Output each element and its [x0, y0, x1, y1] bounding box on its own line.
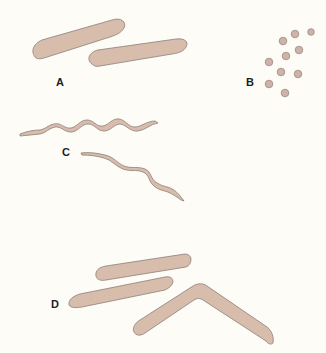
- label-b: B: [246, 77, 254, 88]
- fusiform-cell: [96, 254, 191, 280]
- coccus-cell: [294, 70, 302, 78]
- panel-a: [33, 19, 187, 66]
- coccus-cell: [308, 29, 315, 36]
- rod-cell: [89, 39, 187, 67]
- spiral-cell: [81, 153, 184, 201]
- coccus-cell: [265, 80, 273, 88]
- coccus-cell: [291, 30, 299, 38]
- coccus-cell: [295, 46, 303, 54]
- panel-b: [265, 29, 314, 97]
- panel-c: [20, 119, 184, 201]
- cropped-header-text: [150, 0, 326, 5]
- spiral-cell: [20, 119, 158, 136]
- panel-d: [69, 254, 273, 344]
- label-a: A: [56, 77, 64, 88]
- coccus-cell: [282, 52, 290, 60]
- illustration-canvas: [0, 0, 326, 353]
- fusiform-cell: [69, 277, 173, 308]
- figure: A B C D: [0, 0, 326, 353]
- coccus-cell: [265, 58, 273, 66]
- coccus-cell: [279, 37, 287, 45]
- label-c: C: [62, 147, 70, 158]
- coccus-cell: [277, 68, 285, 76]
- coccus-cell: [281, 89, 289, 97]
- label-d: D: [51, 299, 59, 310]
- boomerang-cell: [133, 284, 273, 344]
